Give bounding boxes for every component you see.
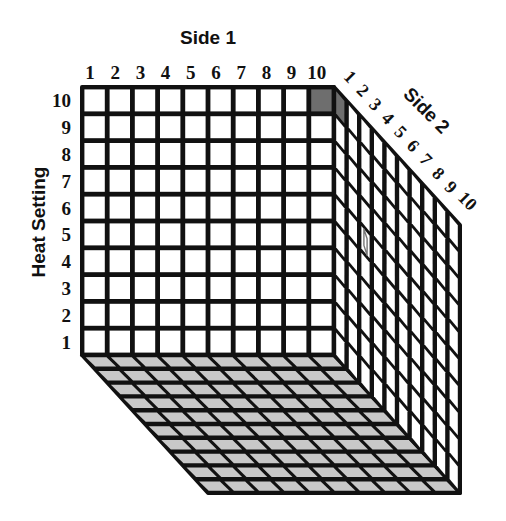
side2-tick: 1 bbox=[340, 67, 361, 88]
front-cell bbox=[135, 170, 155, 192]
front-cell bbox=[311, 331, 331, 353]
front-cell bbox=[185, 277, 205, 299]
front-cell bbox=[185, 223, 205, 245]
front-cell bbox=[110, 197, 130, 219]
side2-tick: 4 bbox=[378, 108, 399, 129]
heat-tick-labels: 10987654321 bbox=[52, 90, 72, 352]
front-cell bbox=[135, 331, 155, 353]
front-cell bbox=[84, 143, 104, 165]
front-cell bbox=[210, 116, 230, 138]
front-cell bbox=[311, 143, 331, 165]
front-cell bbox=[261, 89, 281, 111]
front-cell bbox=[135, 277, 155, 299]
front-cell bbox=[236, 304, 256, 326]
front-cell bbox=[311, 116, 331, 138]
front-cell bbox=[110, 89, 130, 111]
front-cell bbox=[286, 143, 306, 165]
front-cell bbox=[236, 116, 256, 138]
front-cell bbox=[185, 197, 205, 219]
front-cell bbox=[286, 250, 306, 272]
side2-tick: 8 bbox=[428, 163, 449, 184]
front-cell bbox=[135, 250, 155, 272]
front-cell bbox=[160, 89, 180, 111]
side1-tick: 5 bbox=[186, 62, 196, 83]
front-cell bbox=[311, 304, 331, 326]
front-cell bbox=[286, 304, 306, 326]
front-cell bbox=[236, 277, 256, 299]
front-cell bbox=[185, 89, 205, 111]
heat-tick: 8 bbox=[62, 144, 72, 165]
front-cell bbox=[286, 116, 306, 138]
front-cell bbox=[84, 277, 104, 299]
front-cell bbox=[261, 223, 281, 245]
side1-tick: 9 bbox=[287, 62, 297, 83]
heat-tick: 10 bbox=[52, 90, 71, 111]
front-cell bbox=[110, 170, 130, 192]
front-cell bbox=[236, 331, 256, 353]
front-cell bbox=[84, 89, 104, 111]
side2-tick: 5 bbox=[390, 122, 411, 143]
side1-tick: 1 bbox=[85, 62, 95, 83]
front-cell bbox=[311, 250, 331, 272]
front-cell bbox=[84, 197, 104, 219]
heat-setting-cube-diagram: Side 1 12345678910 Heat Setting 10987654… bbox=[0, 0, 506, 521]
front-cell bbox=[210, 143, 230, 165]
front-cell bbox=[210, 170, 230, 192]
front-cell bbox=[311, 197, 331, 219]
front-cell bbox=[160, 116, 180, 138]
front-cell bbox=[210, 197, 230, 219]
front-cell bbox=[135, 223, 155, 245]
front-cell bbox=[160, 250, 180, 272]
front-cell bbox=[210, 89, 230, 111]
front-cell bbox=[261, 304, 281, 326]
side1-tick-labels: 12345678910 bbox=[85, 62, 326, 83]
front-cell bbox=[160, 223, 180, 245]
side2-tick: 6 bbox=[403, 136, 424, 157]
front-cell bbox=[236, 250, 256, 272]
front-cell bbox=[185, 116, 205, 138]
front-cell bbox=[135, 89, 155, 111]
front-cell bbox=[286, 170, 306, 192]
front-cell bbox=[160, 277, 180, 299]
front-cell bbox=[286, 197, 306, 219]
front-cell bbox=[110, 331, 130, 353]
front-cell bbox=[261, 143, 281, 165]
front-cell bbox=[84, 116, 104, 138]
front-cell bbox=[160, 143, 180, 165]
front-cell bbox=[311, 170, 331, 192]
front-cell bbox=[160, 170, 180, 192]
front-cell bbox=[210, 223, 230, 245]
front-cell bbox=[236, 143, 256, 165]
front-cell bbox=[261, 250, 281, 272]
front-cell bbox=[311, 277, 331, 299]
heat-tick: 9 bbox=[62, 117, 72, 138]
front-cell bbox=[185, 170, 205, 192]
front-cell bbox=[185, 304, 205, 326]
side1-tick: 10 bbox=[307, 62, 326, 83]
side1-tick: 7 bbox=[236, 62, 246, 83]
front-cell bbox=[236, 89, 256, 111]
front-cell bbox=[84, 223, 104, 245]
front-cell bbox=[135, 304, 155, 326]
front-cell bbox=[261, 277, 281, 299]
heat-tick: 5 bbox=[62, 224, 72, 245]
heat-tick: 4 bbox=[62, 251, 72, 272]
side2-tick: 7 bbox=[416, 149, 437, 170]
side1-tick: 2 bbox=[110, 62, 120, 83]
front-cell bbox=[135, 197, 155, 219]
front-cell bbox=[110, 250, 130, 272]
heat-tick: 1 bbox=[62, 332, 72, 353]
side1-axis-label: Side 1 bbox=[180, 27, 236, 48]
front-cell bbox=[84, 170, 104, 192]
front-face bbox=[82, 87, 334, 355]
front-cell bbox=[160, 304, 180, 326]
heat-axis-label: Heat Setting bbox=[28, 167, 49, 278]
front-cell bbox=[261, 116, 281, 138]
front-cell bbox=[185, 250, 205, 272]
front-cell bbox=[110, 143, 130, 165]
front-cell bbox=[261, 331, 281, 353]
heat-tick: 6 bbox=[62, 198, 72, 219]
front-cell bbox=[84, 331, 104, 353]
front-cell bbox=[84, 304, 104, 326]
front-cell bbox=[236, 223, 256, 245]
